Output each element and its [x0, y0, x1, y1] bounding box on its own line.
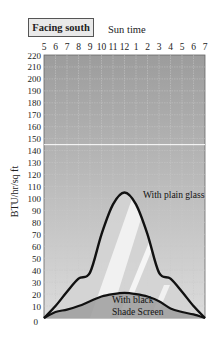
y-tick-label: 30 [32, 278, 42, 288]
y-tick-label: 10 [32, 302, 42, 312]
shade-screen-label-2: Shade Screen [112, 307, 164, 317]
y-tick-label: 180 [28, 98, 42, 108]
x-tick-label: 8 [76, 42, 81, 52]
x-tick-label: 4 [168, 42, 173, 52]
x-tick-label: 12 [120, 42, 130, 52]
y-tick-label: 90 [32, 206, 42, 216]
x-tick-label: 3 [157, 42, 162, 52]
x-tick-label: 7 [65, 42, 70, 52]
x-tick-label: 6 [53, 42, 58, 52]
y-tick-label: 110 [28, 182, 42, 192]
y-tick-label: 40 [32, 266, 42, 276]
y-tick-label: 100 [28, 194, 42, 204]
y-tick-label: 200 [28, 74, 42, 84]
x-tick-label: 2 [145, 42, 150, 52]
y-axis-ticks: 0102030405060708090100110120130140150160… [28, 51, 42, 328]
y-tick-label: 140 [28, 146, 42, 156]
y-tick-label: 80 [32, 218, 42, 228]
x-tick-label: 5 [180, 42, 185, 52]
y-tick-label: 210 [28, 62, 42, 72]
y-tick-label: 0 [34, 317, 39, 327]
chart-plot: 0102030405060708090100110120130140150160… [0, 0, 221, 341]
x-tick-label: 9 [88, 42, 93, 52]
plain-glass-label: With plain glass [143, 190, 205, 200]
y-tick-label: 70 [32, 230, 42, 240]
shade-screen-label-1: With black [112, 295, 154, 305]
y-tick-label: 160 [28, 122, 42, 132]
y-tick-label: 60 [32, 242, 42, 252]
y-tick-label: 120 [28, 170, 42, 180]
y-tick-label: 220 [28, 51, 42, 61]
x-axis-ticks: 567891011121234567 [42, 42, 208, 52]
y-tick-label: 20 [32, 290, 42, 300]
x-tick-label: 11 [108, 42, 117, 52]
x-tick-label: 7 [203, 42, 208, 52]
y-tick-label: 170 [28, 110, 42, 120]
x-tick-label: 5 [42, 42, 47, 52]
y-tick-label: 130 [28, 158, 42, 168]
x-tick-label: 6 [191, 42, 196, 52]
y-tick-label: 50 [32, 254, 42, 264]
x-tick-label: 10 [97, 42, 107, 52]
y-tick-label: 190 [28, 86, 42, 96]
y-tick-label: 150 [28, 134, 42, 144]
x-tick-label: 1 [134, 42, 139, 52]
